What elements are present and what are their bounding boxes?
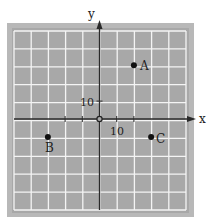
point-b-marker xyxy=(45,134,51,140)
x-tick-label-10: 10 xyxy=(110,125,124,138)
origin-marker xyxy=(97,116,102,121)
point-c-marker xyxy=(148,134,154,140)
coordinate-plane: x y 10 10 ABC xyxy=(0,0,211,223)
point-c-label: C xyxy=(156,132,165,146)
x-axis-label: x xyxy=(199,112,206,126)
point-b-label: B xyxy=(45,141,54,155)
y-axis-label: y xyxy=(87,7,95,21)
point-a-marker xyxy=(131,62,137,68)
y-tick-label-10: 10 xyxy=(80,96,94,109)
point-a-label: A xyxy=(139,59,149,73)
